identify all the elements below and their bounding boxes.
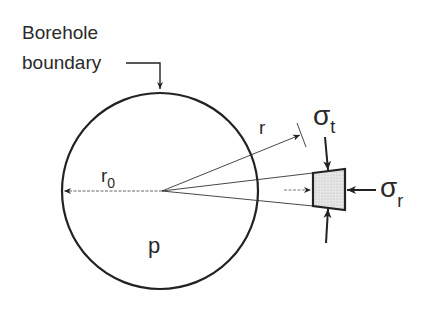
boundary-leader-arrow: [126, 63, 160, 89]
sigma-t-label: σt: [313, 102, 335, 130]
sigma-t-arrow-bottom: [326, 209, 328, 243]
stress-element: [313, 169, 345, 210]
sigma-r-symbol: σ: [380, 172, 397, 203]
sigma-t-symbol: σ: [313, 100, 330, 131]
element-ray-bottom: [162, 191, 313, 206]
r-label: r: [259, 117, 265, 139]
boundary-label-line2: boundary: [22, 52, 101, 74]
r-tick-mark: [297, 123, 306, 147]
r0-label: r0: [101, 165, 115, 187]
sigma-r-label: σr: [380, 174, 403, 202]
sigma-r-sub: r: [397, 191, 403, 211]
pressure-label: p: [148, 233, 160, 259]
sigma-t-sub: t: [330, 117, 335, 137]
boundary-label-line1: Borehole: [22, 22, 98, 44]
borehole-diagram: [0, 0, 426, 317]
r0-label-sub: 0: [107, 175, 115, 191]
sigma-t-arrow-top: [325, 137, 328, 170]
